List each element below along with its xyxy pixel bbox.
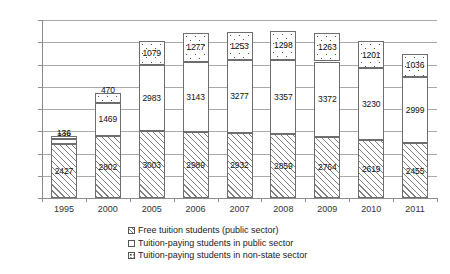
bar-segment-free[interactable]: 2455 (402, 143, 428, 198)
bar-segment-paid-public[interactable]: 3230 (358, 68, 384, 140)
x-axis-tick-mark (130, 198, 131, 202)
bar-value-label: 3357 (274, 93, 293, 102)
x-axis-tick-label: 2005 (142, 204, 162, 214)
bar-value-label: 2859 (274, 162, 293, 171)
bar-value-label: 1079 (142, 49, 161, 58)
legend-item[interactable]: Tuition-paying students in non-state sec… (128, 250, 307, 261)
x-axis-tick-mark (218, 198, 219, 202)
bar-value-label: 1253 (230, 42, 249, 51)
x-axis-tick-label: 2006 (186, 204, 206, 214)
bar-segment-free[interactable]: 3003 (139, 131, 165, 198)
x-axis-tick-label: 2008 (273, 204, 293, 214)
bar-group[interactable]: 28021469470 (95, 20, 121, 198)
bar-segment-free[interactable]: 2859 (270, 134, 296, 198)
white-swatch-icon (128, 240, 135, 247)
y-axis-tick-mark (38, 42, 42, 43)
bar-value-label: 470 (101, 85, 115, 94)
y-axis-tick-mark (38, 131, 42, 132)
bar-value-label: 1201 (362, 50, 381, 59)
x-axis-tick-label: 2011 (405, 204, 424, 214)
x-axis-tick-label: 2009 (317, 204, 337, 214)
x-axis-tick-label: 2010 (361, 204, 381, 214)
bar-group[interactable]: 245529991036 (402, 20, 428, 198)
bar-group[interactable]: 276433721263 (314, 20, 340, 198)
y-axis-line (42, 20, 43, 198)
bar-group[interactable]: 300329831079 (139, 20, 165, 198)
bar-segment-paid-nonstate[interactable]: 470 (95, 93, 121, 103)
bar-value-label: 1469 (99, 115, 118, 124)
bar-segment-paid-nonstate[interactable]: 1263 (314, 33, 340, 61)
y-axis-tick-mark (38, 176, 42, 177)
legend-item-label: Tuition-paying students in non-state sec… (138, 250, 307, 261)
bar-segment-paid-public[interactable]: 1469 (95, 103, 121, 136)
bar-value-label: 2999 (406, 106, 425, 115)
bar-value-label: 1036 (406, 61, 425, 70)
stacked-bar-chart: 01,0002,0003,0004,0005,0006,0007,0008,00… (0, 0, 450, 274)
x-axis-tick-mark (437, 198, 438, 202)
legend-item-label: Free tuition students (public sector) (138, 225, 279, 236)
bar-segment-paid-public[interactable]: 3372 (314, 62, 340, 137)
bar-value-label: 3230 (362, 100, 381, 109)
legend-item-label: Tuition-paying students in public sector (138, 238, 293, 249)
y-axis-tick-mark (38, 109, 42, 110)
bar-segment-paid-nonstate[interactable]: 1036 (402, 54, 428, 77)
bar-segment-free[interactable]: 2619 (358, 140, 384, 198)
bar-segment-paid-nonstate[interactable]: 136 (51, 136, 77, 139)
bar-segment-paid-nonstate[interactable]: 1277 (183, 33, 209, 61)
bar-segment-free[interactable]: 2932 (227, 133, 253, 198)
bar-segment-paid-public[interactable]: 3277 (227, 60, 253, 133)
bar-segment-paid-nonstate[interactable]: 1253 (227, 32, 253, 60)
chart-legend: Free tuition students (public sector)Tui… (128, 225, 307, 261)
bar-segment-paid-nonstate[interactable]: 1298 (270, 31, 296, 60)
x-axis-tick-label: 2007 (229, 204, 249, 214)
x-axis-tick-mark (349, 198, 350, 202)
bar-value-label: 136 (57, 129, 71, 138)
bar-segment-free[interactable]: 2764 (314, 137, 340, 198)
bar-value-label: 3143 (186, 92, 205, 101)
legend-item[interactable]: Free tuition students (public sector) (128, 225, 307, 236)
bar-group[interactable]: 2427228136 (51, 20, 77, 198)
bar-segment-free[interactable]: 2802 (95, 136, 121, 198)
bar-value-label: 1277 (186, 43, 205, 52)
bar-segment-paid-public[interactable]: 3357 (270, 60, 296, 135)
bar-value-label: 1263 (318, 43, 337, 52)
x-axis-tick-mark (393, 198, 394, 202)
x-axis-tick-mark (174, 198, 175, 202)
bar-segment-free[interactable]: 2427 (51, 144, 77, 198)
bar-group[interactable]: 285933571298 (270, 20, 296, 198)
hatch-swatch-icon (128, 227, 135, 234)
bar-segment-paid-nonstate[interactable]: 1079 (139, 41, 165, 65)
bar-value-label: 2802 (99, 163, 118, 172)
x-axis-tick-mark (261, 198, 262, 202)
bar-segment-paid-public[interactable]: 2983 (139, 65, 165, 131)
bar-group[interactable]: 298931431277 (183, 20, 209, 198)
bar-value-label: 2764 (318, 163, 337, 172)
bar-value-label: 3003 (142, 160, 161, 169)
bar-segment-free[interactable]: 2989 (183, 132, 209, 199)
x-axis-tick-label: 2000 (98, 204, 118, 214)
bar-group[interactable]: 293232771253 (227, 20, 253, 198)
bar-segment-paid-public[interactable]: 228 (51, 139, 77, 144)
x-axis-tick-label: 1995 (54, 204, 74, 214)
legend-item[interactable]: Tuition-paying students in public sector (128, 238, 307, 249)
bar-segment-paid-public[interactable]: 2999 (402, 77, 428, 144)
x-axis-tick-mark (305, 198, 306, 202)
bar-value-label: 2932 (230, 161, 249, 170)
x-axis-tick-mark (42, 198, 43, 202)
y-axis-tick-mark (38, 65, 42, 66)
bar-group[interactable]: 261932301201 (358, 20, 384, 198)
bar-segment-paid-nonstate[interactable]: 1201 (358, 41, 384, 68)
bar-value-label: 2619 (362, 165, 381, 174)
bar-segment-paid-public[interactable]: 3143 (183, 62, 209, 132)
bar-value-label: 3372 (318, 95, 337, 104)
bar-value-label: 3277 (230, 92, 249, 101)
bar-value-label: 2427 (55, 167, 74, 176)
x-axis-tick-mark (86, 198, 87, 202)
y-axis-tick-mark (38, 87, 42, 88)
bar-value-label: 2989 (186, 161, 205, 170)
dotted-swatch-icon (128, 252, 135, 259)
bar-value-label: 2455 (406, 166, 425, 175)
y-axis-tick-mark (38, 154, 42, 155)
y-axis-tick-mark (38, 20, 42, 21)
bar-value-label: 1298 (274, 41, 293, 50)
